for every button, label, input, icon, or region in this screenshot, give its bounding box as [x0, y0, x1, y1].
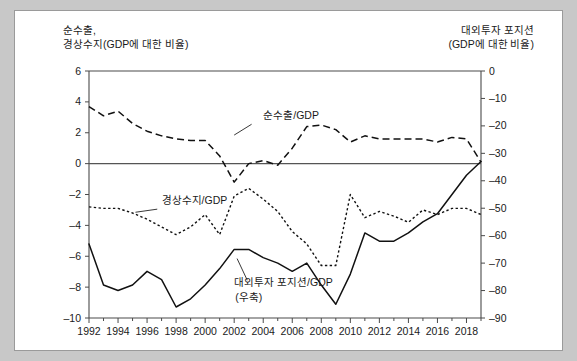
y-tick-label-right: –40	[489, 174, 507, 186]
annotation-leader-0	[234, 124, 251, 135]
x-tick-label: 2016	[426, 325, 450, 337]
x-tick-label: 2010	[339, 325, 363, 337]
y-tick-label-left: 0	[75, 157, 81, 169]
x-tick-label: 2012	[368, 325, 392, 337]
y-tick-label-right: –20	[489, 119, 507, 131]
x-tick-label: 1996	[135, 325, 159, 337]
chart-plot: 6420–2–4–6–8–100–10–20–30–40–50–60–70–80…	[15, 11, 564, 352]
x-tick-label: 2000	[193, 325, 217, 337]
x-tick-label: 1992	[77, 325, 101, 337]
y-tick-label-right: –50	[489, 202, 507, 214]
y-tick-label-left: 4	[75, 95, 81, 107]
y-tick-label-right: –10	[489, 92, 507, 104]
y-tick-label-right: –80	[489, 284, 507, 296]
y-tick-label-right: –30	[489, 147, 507, 159]
x-tick-label: 2014	[397, 325, 421, 337]
y-tick-label-right: –60	[489, 229, 507, 241]
x-tick-label: 1994	[106, 325, 130, 337]
annotation-leader-1	[135, 209, 157, 212]
series-line-1	[89, 188, 481, 265]
y-tick-label-left: –10	[63, 312, 81, 324]
y-tick-label-left: –6	[69, 250, 81, 262]
x-tick-label: 1998	[164, 325, 188, 337]
annotation-label-0: 순수출/GDP	[263, 109, 319, 121]
y-tick-label-left: –2	[69, 188, 81, 200]
y-tick-label-right: –90	[489, 312, 507, 324]
y-tick-label-left: –8	[69, 281, 81, 293]
axes-group: 6420–2–4–6–8–100–10–20–30–40–50–60–70–80…	[63, 65, 506, 337]
x-tick-label: 2018	[455, 325, 479, 337]
x-tick-label: 2008	[310, 325, 334, 337]
x-tick-label: 2002	[223, 325, 247, 337]
annotation-group: 순수출/GDP경상수지/GDP대외투자 포지션/GDP(우축)	[135, 109, 332, 303]
y-tick-label-left: 6	[75, 65, 81, 77]
annotation-label-1: 경상수지/GDP	[162, 194, 228, 206]
y-tick-label-left: 2	[75, 126, 81, 138]
x-tick-label: 2006	[281, 325, 305, 337]
chart-panel: 순수출, 경상수지(GDP에 대한 비율) 대외투자 포지션 (GDP에 대한 …	[14, 10, 563, 351]
y-tick-label-right: –70	[489, 257, 507, 269]
annotation-label-2: 대외투자 포지션/GDP	[234, 276, 333, 288]
y-tick-label-left: –4	[69, 219, 81, 231]
figure-container: 순수출, 경상수지(GDP에 대한 비율) 대외투자 포지션 (GDP에 대한 …	[0, 0, 577, 361]
y-tick-label-right: 0	[489, 65, 495, 77]
x-tick-label: 2004	[252, 325, 276, 337]
annotation-label-3: (우축)	[235, 291, 262, 303]
